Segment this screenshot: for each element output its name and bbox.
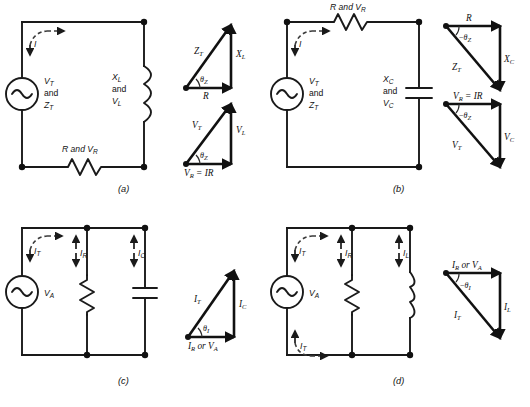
panel-d: IT IR IL IT VA IR or <box>271 225 511 386</box>
reactance-label-b-line2: and <box>383 86 398 96</box>
triangle-hypotenuse <box>446 26 500 90</box>
triangle-vertical-label: IC <box>238 299 247 310</box>
triangle-angle-label: −θI <box>460 281 471 291</box>
current-label-a: I <box>34 39 37 49</box>
resistor-label-a: R and VR <box>62 144 98 155</box>
triangle-origin-dot <box>443 270 449 276</box>
triangle-angle-label: −θZ <box>459 33 471 43</box>
triangle-base-label: VR = IR <box>184 168 214 179</box>
panel-a-impedance-triangle: ZT XL R θZ <box>183 25 246 101</box>
panel-b-caption: (b) <box>393 184 404 194</box>
ac-sine-glyph-c <box>12 288 32 296</box>
triangle-hypotenuse <box>186 25 231 88</box>
triangle-hypotenuse-label: VT <box>192 120 203 131</box>
triangle-hypotenuse <box>188 271 234 337</box>
node-dot <box>141 164 147 170</box>
panel-c-caption: (c) <box>118 376 129 386</box>
panel-a: I VT and ZT XL and VL R and VR <box>6 19 246 194</box>
current-arc-c <box>30 236 47 250</box>
triangle-hypotenuse-label: ZT <box>452 62 462 73</box>
node-dot <box>142 225 148 231</box>
triangle-vertical-label: VL <box>236 125 246 136</box>
inductor-symbol-a <box>144 66 151 122</box>
triangle-angle-label: −θZ <box>459 111 471 121</box>
ac-sine-glyph-d <box>277 288 297 296</box>
triangle-base-label: IR or VA <box>187 341 219 352</box>
node-dot <box>349 225 355 231</box>
resistor-symbol-b <box>329 14 374 30</box>
circuit-figure: I VT and ZT XL and VL R and VR <box>0 0 530 407</box>
node-dot <box>407 225 413 231</box>
source-label-a-line3: ZT <box>43 100 54 111</box>
resistor-symbol-d <box>345 275 359 315</box>
node-dot <box>141 19 147 25</box>
triangle-vertical-label: IL <box>503 302 511 313</box>
triangle-origin-dot <box>183 85 189 91</box>
panel-c-current-triangle: IT IC IR or VA θI <box>185 271 247 352</box>
ac-sine-glyph-b <box>277 90 297 98</box>
panel-d-caption: (d) <box>393 376 404 386</box>
resistor-label-b: R and VR <box>330 2 366 13</box>
node-dot <box>84 225 90 231</box>
current-label-c-total: IT <box>34 246 41 257</box>
triangle-angle-label: θZ <box>200 75 208 85</box>
panel-a-caption: (a) <box>118 184 129 194</box>
node-dot <box>142 352 148 358</box>
source-label-a-line2: and <box>44 88 59 98</box>
current-arc-b <box>295 31 312 45</box>
triangle-vertical-label: VC <box>504 132 515 143</box>
triangle-origin-dot <box>183 161 189 167</box>
triangle-hypotenuse <box>446 104 500 167</box>
triangle-angle-label: θZ <box>200 151 208 161</box>
triangle-origin-dot <box>185 334 191 340</box>
source-label-d: VA <box>309 288 320 299</box>
triangle-hypotenuse-label: VT <box>452 140 463 151</box>
inductor-symbol-d <box>410 272 415 318</box>
reactance-label-a-line2: and <box>112 84 127 94</box>
triangle-base-label: IR or VA <box>451 260 483 271</box>
triangle-vertical-label: XC <box>503 54 515 65</box>
triangle-hypotenuse-label: ZT <box>194 46 204 57</box>
source-label-b-line1: VT <box>309 76 320 87</box>
current-arc-a <box>30 31 47 45</box>
resistor-symbol-c <box>80 275 94 315</box>
source-label-a-line1: VT <box>44 76 55 87</box>
figure-container: I VT and ZT XL and VL R and VR <box>0 0 530 407</box>
panel-c: IT IR IC VA IT IC <box>6 225 247 386</box>
node-dot <box>349 352 355 358</box>
node-dot <box>19 164 25 170</box>
source-label-b-line2: and <box>309 88 324 98</box>
triangle-hypotenuse <box>186 104 231 164</box>
source-label-c: VA <box>44 288 55 299</box>
triangle-origin-dot <box>443 23 449 29</box>
current-label-d-l: IL <box>403 248 409 259</box>
triangle-origin-dot <box>443 101 449 107</box>
reactance-label-b-line1: XC <box>382 74 394 85</box>
triangle-angle-label: θI <box>203 324 210 334</box>
triangle-base-label: VR = IR <box>453 91 483 102</box>
current-label-b: I <box>299 39 302 49</box>
triangle-base-label: R <box>465 13 472 23</box>
triangle-hypotenuse-label: IT <box>453 310 462 321</box>
triangle-hypotenuse-label: IT <box>193 294 202 305</box>
node-dot <box>284 19 290 25</box>
source-label-b-line3: ZT <box>308 100 319 111</box>
node-dot <box>416 19 422 25</box>
resistor-symbol-a <box>63 159 109 175</box>
triangle-vertical-label: XL <box>235 49 246 60</box>
ac-sine-glyph-a <box>12 90 32 98</box>
node-dot <box>84 352 90 358</box>
current-arc-d <box>295 236 312 250</box>
panel-b-voltage-triangle: VR = IR VC VT −θZ <box>443 91 515 167</box>
reactance-label-a-line1: XL <box>111 72 122 83</box>
panel-b-impedance-triangle: R XC ZT −θZ <box>443 13 515 90</box>
angle-arc <box>456 273 459 282</box>
current-label-d-total-top: IT <box>299 246 306 257</box>
current-label-d-total-bottom: IT <box>300 341 307 352</box>
panel-a-voltage-triangle: VT VL VR = IR θZ <box>183 104 246 179</box>
triangle-hypotenuse <box>446 273 500 338</box>
triangle-base-label: R <box>202 91 209 101</box>
panel-b: I VT and ZT XC and VC R and VR <box>271 2 515 194</box>
node-dot <box>416 164 422 170</box>
panel-d-current-triangle: IR or VA IL IT −θI <box>443 260 511 338</box>
